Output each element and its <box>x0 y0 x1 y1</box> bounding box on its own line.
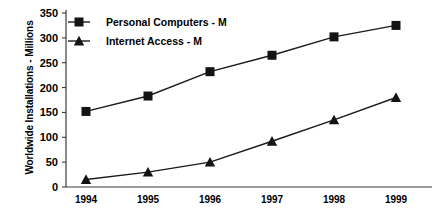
data-point-marker <box>82 107 91 116</box>
x-tick-label: 1994 <box>75 194 98 205</box>
legend-label: Personal Computers - M <box>106 16 227 28</box>
data-point-marker <box>330 32 339 41</box>
data-point-marker <box>268 51 277 60</box>
y-tick-label: 0 <box>52 181 58 193</box>
x-tick-label: 1998 <box>323 194 346 205</box>
y-axis-tick-labels: 050100150200250300350 <box>40 7 58 193</box>
data-point-marker <box>391 92 401 102</box>
x-tick-label: 1995 <box>137 194 160 205</box>
series-2 <box>81 92 401 184</box>
chart-legend: Personal Computers - MInternet Access - … <box>68 16 227 47</box>
y-tick-label: 200 <box>40 82 58 94</box>
legend-marker-square-icon <box>75 18 84 27</box>
y-tick-label: 150 <box>40 106 58 118</box>
data-point-marker <box>267 136 277 146</box>
x-tick-label: 1999 <box>385 194 408 205</box>
data-point-marker <box>144 92 153 101</box>
data-point-marker <box>392 21 401 30</box>
legend-item-2[interactable]: Internet Access - M <box>68 35 202 47</box>
chart-plot-area: 050100150200250300350 199419951996199719… <box>0 0 440 220</box>
legend-label: Internet Access - M <box>106 35 202 47</box>
legend-item-1[interactable]: Personal Computers - M <box>68 16 227 28</box>
x-axis-tick-labels: 199419951996199719981999 <box>75 194 408 205</box>
y-tick-label: 250 <box>40 57 58 69</box>
data-point-marker <box>206 67 215 76</box>
x-tick-label: 1997 <box>261 194 284 205</box>
series-line <box>86 98 396 180</box>
data-point-marker <box>205 157 215 167</box>
data-point-marker <box>329 115 339 125</box>
x-tick-label: 1996 <box>199 194 222 205</box>
chart-container: Worldwide Installations - Millions 05010… <box>0 0 440 220</box>
y-tick-label: 350 <box>40 7 58 19</box>
y-tick-label: 300 <box>40 32 58 44</box>
y-tick-label: 100 <box>40 131 58 143</box>
y-tick-label: 50 <box>46 156 58 168</box>
